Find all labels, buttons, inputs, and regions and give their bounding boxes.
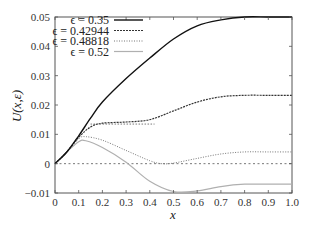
x-tick-label: 0 <box>52 196 58 208</box>
y-tick-label: 0.04 <box>31 40 51 52</box>
x-tick-label: 0.4 <box>143 196 157 208</box>
y-tick-label: 0.02 <box>31 99 50 111</box>
x-tick-label: 0.9 <box>261 196 275 208</box>
x-tick-label: 0.8 <box>238 196 252 208</box>
legend: ϵ = 0.35 ϵ = 0.42944 ϵ = 0.48818 ϵ = 0.5… <box>52 13 143 59</box>
y-axis-label: U(x,ε) <box>9 90 24 122</box>
series-line-1 <box>55 95 292 163</box>
legend-label: ϵ = 0.52 <box>70 45 109 59</box>
x-tick-label: 0.1 <box>72 196 86 208</box>
x-tick-label: 0.2 <box>96 196 110 208</box>
y-tick-label: −0.01 <box>25 187 50 199</box>
x-tick-label: 1.0 <box>285 196 299 208</box>
y-tick-label: 0.05 <box>31 11 51 23</box>
series-line-3 <box>55 140 292 192</box>
series-line-2 <box>55 137 292 164</box>
x-tick-label: 0.3 <box>119 196 133 208</box>
x-tick-label: 0.7 <box>214 196 228 208</box>
legend-item-3: ϵ = 0.52 <box>70 45 143 59</box>
line-chart: 00.10.20.30.40.50.60.70.80.91.0 −0.0100.… <box>0 0 313 233</box>
y-tick-label: 0.03 <box>31 70 51 82</box>
x-axis-label: x <box>169 207 176 222</box>
y-tick-label: 0 <box>45 158 51 170</box>
y-tick-label: 0.01 <box>31 128 50 140</box>
x-tick-label: 0.6 <box>190 196 204 208</box>
